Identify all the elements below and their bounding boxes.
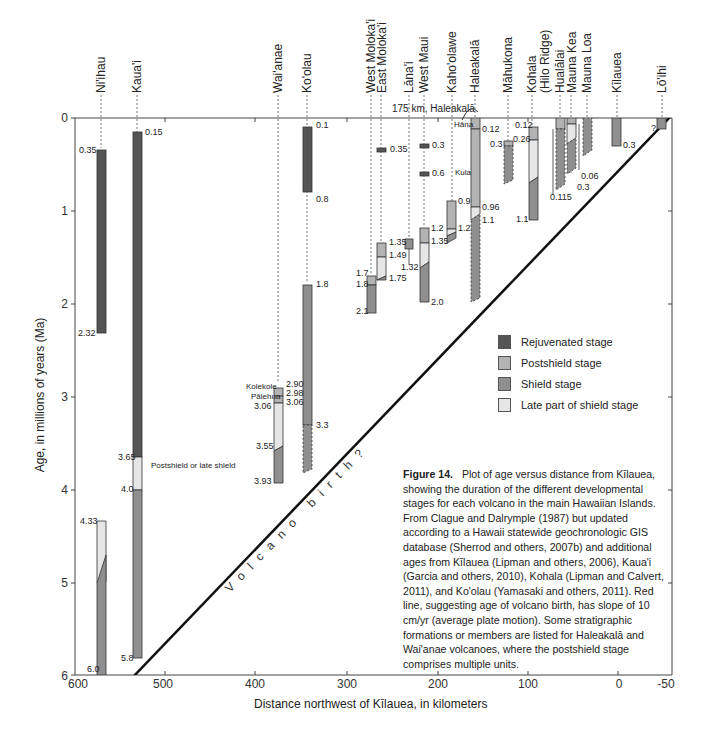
svg-text:1.35: 1.35 xyxy=(431,236,449,246)
bar-mauna-kea xyxy=(567,118,579,174)
svg-text:5.8: 5.8 xyxy=(121,653,134,663)
svg-text:Hāna: Hāna xyxy=(454,120,474,129)
svg-text:1.2: 1.2 xyxy=(458,223,471,233)
legend-item-rejuvenated: Rejuvenated stage xyxy=(498,331,638,352)
svg-text:1.7: 1.7 xyxy=(356,268,369,278)
bar-loihi xyxy=(657,118,666,129)
svg-text:0: 0 xyxy=(616,677,623,691)
label-lanai: Lāna'i xyxy=(402,61,416,93)
x-axis-label: Distance northwest of Kīlauea, in kilome… xyxy=(254,697,487,711)
svg-text:0: 0 xyxy=(61,111,68,125)
svg-text:4.0: 4.0 xyxy=(121,484,134,494)
svg-text:3.55: 3.55 xyxy=(256,441,274,451)
svg-text:1.8: 1.8 xyxy=(316,279,329,289)
svg-text:1: 1 xyxy=(61,204,68,218)
svg-text:200: 200 xyxy=(428,677,448,691)
svg-text:2.0: 2.0 xyxy=(431,297,444,307)
svg-text:175 km, Haleakalā: 175 km, Haleakalā xyxy=(392,103,475,114)
label-waianae: Wai'anae xyxy=(271,43,285,93)
bar-hualalai xyxy=(553,118,565,195)
legend-swatch-late-shield xyxy=(498,398,511,412)
svg-text:3.65: 3.65 xyxy=(118,452,136,462)
svg-text:Kolekole: Kolekole xyxy=(246,382,277,391)
svg-text:-50: -50 xyxy=(657,677,675,691)
label-koolau: Ko'olau xyxy=(300,53,314,93)
bar-kauai xyxy=(133,132,142,658)
label-niihau: Ni'ihau xyxy=(94,57,108,93)
legend-swatch-postshield xyxy=(498,356,511,370)
svg-text:3: 3 xyxy=(61,390,68,404)
bar-waianae xyxy=(274,388,283,483)
svg-text:1.32: 1.32 xyxy=(401,262,419,272)
svg-text:2.32: 2.32 xyxy=(78,328,96,338)
svg-text:3.06: 3.06 xyxy=(254,401,272,411)
svg-text:5: 5 xyxy=(61,576,68,590)
legend-item-late-shield: Late part of shield stage xyxy=(498,394,638,415)
bar-kilauea xyxy=(612,118,621,146)
svg-text:Kula: Kula xyxy=(455,168,472,177)
label-kahoolawe: Kaho'olawe xyxy=(445,31,459,93)
label-kauai: Kaua'i xyxy=(130,60,144,93)
label-hilo-ridge: (Hilo Ridge) xyxy=(538,30,552,93)
svg-text:0.35: 0.35 xyxy=(390,144,408,154)
svg-text:1.49: 1.49 xyxy=(389,250,407,260)
svg-text:0.1: 0.1 xyxy=(316,120,329,130)
svg-text:0.3: 0.3 xyxy=(623,140,636,150)
figure-caption: Figure 14. Plot of age versus distance f… xyxy=(403,467,673,671)
bar-niihau xyxy=(97,150,106,675)
svg-text:0.26: 0.26 xyxy=(513,134,531,144)
legend-swatch-shield xyxy=(498,377,511,391)
svg-text:0.15: 0.15 xyxy=(145,127,163,137)
svg-text:0.06: 0.06 xyxy=(581,171,599,181)
label-loihi: Lō'ihi xyxy=(655,65,669,93)
svg-text:4.33: 4.33 xyxy=(80,516,98,526)
bar-mahukona xyxy=(504,141,513,184)
svg-text:Pālehua: Pālehua xyxy=(251,392,281,401)
svg-text:1.2: 1.2 xyxy=(431,223,444,233)
figure-label: Figure 14. xyxy=(403,468,453,480)
svg-text:6.0: 6.0 xyxy=(87,664,100,674)
svg-text:0.96: 0.96 xyxy=(482,202,500,212)
svg-text:?: ? xyxy=(651,123,656,133)
haleakala-175km-annotation: 175 km, Haleakalā xyxy=(392,103,478,120)
label-mahukona: Māhukona xyxy=(501,37,515,93)
svg-text:1.75: 1.75 xyxy=(389,273,407,283)
svg-text:0.12: 0.12 xyxy=(482,124,500,134)
bar-haleakala xyxy=(471,118,480,302)
svg-text:400: 400 xyxy=(245,677,265,691)
label-mauna-kea: Mauna Kea xyxy=(565,31,579,93)
svg-text:0.6: 0.6 xyxy=(432,168,445,178)
svg-text:4: 4 xyxy=(61,483,68,497)
label-haleakala: Haleakalā xyxy=(468,39,482,93)
svg-text:600: 600 xyxy=(68,677,88,691)
svg-text:2: 2 xyxy=(61,297,68,311)
svg-text:3.3: 3.3 xyxy=(316,420,329,430)
label-kohala: Kohala xyxy=(525,55,539,93)
svg-text:0.35: 0.35 xyxy=(79,145,97,155)
svg-text:100: 100 xyxy=(518,677,538,691)
legend-item-postshield: Postshield stage xyxy=(498,352,638,373)
svg-text:1.35: 1.35 xyxy=(389,237,407,247)
svg-text:3.06: 3.06 xyxy=(286,397,304,407)
svg-text:1.8: 1.8 xyxy=(356,279,369,289)
volcano-name-labels: Ni'ihau Kaua'i Wai'anae Ko'olau West Mol… xyxy=(94,19,669,93)
volcano-birth-label: Volcano birth? xyxy=(222,440,372,595)
figure-caption-text: Plot of age versus distance from Kīlauea… xyxy=(403,468,664,670)
legend: Rejuvenated stage Postshield stage Shiel… xyxy=(498,331,638,415)
svg-text:1.1: 1.1 xyxy=(516,214,529,224)
label-kilauea: Kīlauea xyxy=(610,52,624,93)
label-west-maui: West Maui xyxy=(417,37,431,93)
svg-text:1.1: 1.1 xyxy=(482,215,495,225)
svg-text:0.8: 0.8 xyxy=(316,194,329,204)
x-axis-tick-labels: 600 500 400 300 200 100 0 -50 xyxy=(68,677,675,691)
svg-text:0.115: 0.115 xyxy=(550,192,572,202)
legend-swatch-rejuvenated xyxy=(498,335,511,349)
svg-text:0.3: 0.3 xyxy=(432,140,445,150)
svg-text:0.12: 0.12 xyxy=(515,120,533,130)
svg-text:0.9: 0.9 xyxy=(458,196,471,206)
y-axis-label: Age, in millions of years (Ma) xyxy=(33,318,47,473)
y-axis-tick-labels: 0 1 2 3 4 5 6 xyxy=(61,111,68,683)
bar-mauna-loa xyxy=(583,118,592,156)
legend-item-shield: Shield stage xyxy=(498,373,638,394)
svg-text:2.1: 2.1 xyxy=(356,306,369,316)
